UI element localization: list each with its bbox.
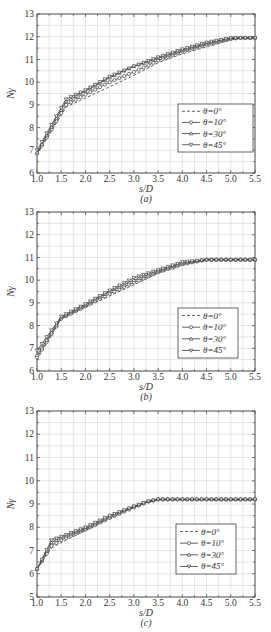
circle-marker xyxy=(127,72,130,75)
x-tick-label: 5.0 xyxy=(225,598,237,608)
panel-caption: (a) xyxy=(140,193,152,205)
chart-panel-a: 1.01.52.02.53.03.54.04.55.05.56789101112… xyxy=(5,9,261,205)
y-tick-label: 9 xyxy=(29,298,34,308)
y-axis-label: Nγ xyxy=(5,285,16,298)
triangle-down-marker xyxy=(35,349,39,352)
x-tick-label: 4.0 xyxy=(176,372,188,382)
circle-marker xyxy=(103,83,106,86)
circle-marker xyxy=(74,98,77,101)
y-tick-label: 13 xyxy=(25,9,35,19)
circle-marker xyxy=(108,81,111,84)
y-tick-label: 7 xyxy=(29,546,34,556)
triangle-down-marker xyxy=(59,106,63,109)
panel-caption: (c) xyxy=(140,617,152,629)
x-tick-label: 5.0 xyxy=(225,372,237,382)
x-tick-label: 1.5 xyxy=(55,174,67,184)
circle-marker xyxy=(152,61,155,64)
legend-entry-label: θ=0° xyxy=(203,311,222,321)
legend-entry-label: θ=10° xyxy=(201,538,224,548)
legend: θ=0°θ=10°θ=30°θ=45° xyxy=(178,104,253,152)
y-tick-label: 7 xyxy=(29,343,34,353)
x-tick-label: 2.0 xyxy=(80,174,92,184)
circle-marker xyxy=(187,542,190,545)
chart-panel-c: 1.01.52.02.53.03.54.04.55.05.55678910111… xyxy=(5,406,261,629)
x-tick-label: 5.0 xyxy=(225,174,237,184)
y-tick-label: 11 xyxy=(25,453,34,463)
figure: 1.01.52.02.53.03.54.04.55.05.56789101112… xyxy=(0,0,271,632)
circle-marker xyxy=(147,64,150,67)
circle-marker xyxy=(137,68,140,71)
legend-entry-label: θ=45° xyxy=(203,345,226,355)
y-tick-label: 13 xyxy=(25,207,35,217)
circle-marker xyxy=(69,101,72,104)
legend-entry-label: θ=30° xyxy=(203,129,226,139)
x-tick-label: 2.0 xyxy=(80,372,92,382)
y-tick-label: 13 xyxy=(25,406,35,416)
y-tick-label: 9 xyxy=(29,100,34,110)
y-tick-label: 8 xyxy=(29,522,34,532)
y-tick-label: 12 xyxy=(25,230,35,240)
triangle-down-marker xyxy=(50,123,54,126)
x-tick-label: 4.0 xyxy=(176,598,188,608)
legend-entry-label: θ=10° xyxy=(203,322,226,332)
circle-marker xyxy=(84,93,87,96)
chart-panel-b: 1.01.52.02.53.03.54.04.55.05.56789101112… xyxy=(5,207,261,403)
y-axis-label: Nγ xyxy=(5,498,16,511)
x-tick-label: 1.5 xyxy=(55,598,67,608)
legend: θ=0°θ=10°θ=30°θ=45° xyxy=(178,308,238,358)
y-axis-label: Nγ xyxy=(5,87,16,100)
legend-entry-label: θ=30° xyxy=(203,334,226,344)
y-tick-label: 5 xyxy=(29,592,34,602)
x-tick-label: 4.5 xyxy=(201,598,213,608)
circle-marker xyxy=(55,541,58,544)
y-tick-label: 11 xyxy=(25,55,34,65)
x-tick-label: 4.5 xyxy=(201,174,213,184)
x-tick-label: 3.5 xyxy=(152,174,164,184)
y-tick-label: 12 xyxy=(25,429,35,439)
y-tick-label: 6 xyxy=(29,569,34,579)
x-tick-label: 2.0 xyxy=(80,598,92,608)
circle-marker xyxy=(98,86,101,89)
y-tick-label: 8 xyxy=(29,123,34,133)
legend-entry-label: θ=10° xyxy=(203,117,226,127)
x-tick-label: 4.5 xyxy=(201,372,213,382)
x-tick-label: 1.5 xyxy=(55,372,67,382)
y-tick-label: 10 xyxy=(25,77,35,87)
x-tick-label: 3.5 xyxy=(152,372,164,382)
circle-marker xyxy=(189,121,192,124)
x-tick-label: 5.5 xyxy=(249,372,261,382)
x-tick-label: 5.5 xyxy=(249,598,261,608)
y-tick-label: 6 xyxy=(29,366,34,376)
x-tick-label: 2.5 xyxy=(104,598,116,608)
circle-marker xyxy=(118,76,121,79)
panel-caption: (b) xyxy=(140,391,152,403)
triangle-down-marker xyxy=(132,277,136,280)
legend-entry-label: θ=0° xyxy=(203,106,222,116)
y-tick-label: 10 xyxy=(25,476,35,486)
y-tick-label: 6 xyxy=(29,168,34,178)
legend: θ=0°θ=10°θ=30°θ=45° xyxy=(176,524,236,574)
y-tick-label: 10 xyxy=(25,275,35,285)
circle-marker xyxy=(123,74,126,77)
x-tick-label: 2.5 xyxy=(104,372,116,382)
y-tick-label: 9 xyxy=(29,499,34,509)
x-tick-label: 3.5 xyxy=(152,598,164,608)
legend-entry-label: θ=45° xyxy=(201,561,224,571)
y-tick-label: 12 xyxy=(25,32,35,42)
legend-entry-label: θ=45° xyxy=(203,140,226,150)
y-tick-label: 11 xyxy=(25,253,34,263)
circle-marker xyxy=(113,78,116,81)
triangle-down-marker xyxy=(55,115,59,118)
y-tick-label: 8 xyxy=(29,321,34,331)
circle-marker xyxy=(132,70,135,73)
y-tick-label: 7 xyxy=(29,145,34,155)
circle-marker xyxy=(79,96,82,99)
legend-entry-label: θ=0° xyxy=(201,527,220,537)
circle-marker xyxy=(89,91,92,94)
circle-marker xyxy=(189,326,192,329)
x-tick-label: 4.0 xyxy=(176,174,188,184)
x-tick-label: 5.5 xyxy=(249,174,261,184)
legend-entry-label: θ=30° xyxy=(201,550,224,560)
x-tick-label: 2.5 xyxy=(104,174,116,184)
circle-marker xyxy=(142,66,145,69)
